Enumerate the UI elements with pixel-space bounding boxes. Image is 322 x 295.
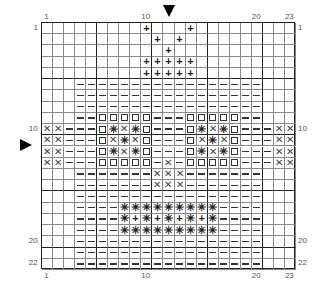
dash-symbol (220, 185, 227, 186)
grid-cell (53, 169, 64, 180)
grid-cell (42, 57, 53, 68)
grid-cell (64, 225, 75, 236)
grid-cell (252, 191, 263, 202)
cross-symbol: ✕ (54, 147, 62, 157)
grid-cell (252, 169, 263, 180)
grid-cell (75, 113, 86, 124)
grid-cell (64, 259, 75, 270)
grid-cell (86, 23, 97, 34)
dash-symbol (198, 252, 205, 253)
asterisk-symbol: ✳ (131, 225, 140, 236)
dash-symbol (154, 252, 161, 253)
grid-cell (230, 158, 241, 169)
dash-symbol (242, 84, 249, 85)
grid-cell (163, 113, 174, 124)
dash-symbol (154, 162, 161, 163)
dash-symbol (231, 252, 238, 253)
grid-cell (42, 225, 53, 236)
dash-symbol (99, 173, 106, 174)
grid-cell (252, 225, 263, 236)
grid-cell: ✳ (163, 225, 174, 236)
grid-cell (208, 79, 219, 90)
square-symbol (198, 159, 205, 166)
grid-cell (64, 191, 75, 202)
dash-symbol (66, 128, 73, 129)
dash-symbol (220, 84, 227, 85)
grid-cell (86, 147, 97, 158)
grid-cell (241, 45, 252, 56)
dash-symbol (231, 173, 238, 174)
grid-cell (186, 236, 197, 247)
grid-cell (75, 57, 86, 68)
grid-cell (108, 236, 119, 247)
grid-cell: + (152, 34, 163, 45)
grid-cell (230, 102, 241, 113)
dash-symbol (220, 95, 227, 96)
dash-symbol (176, 140, 183, 141)
cross-symbol: ✕ (275, 135, 283, 145)
grid-cell (197, 68, 208, 79)
grid-cell (97, 158, 108, 169)
dash-symbol (165, 84, 172, 85)
dash-symbol (176, 106, 183, 107)
dash-symbol (121, 106, 128, 107)
dash-symbol (231, 218, 238, 219)
plus-symbol: + (143, 68, 149, 79)
dash-symbol (110, 185, 117, 186)
grid-cell (208, 45, 219, 56)
asterisk-symbol: ✳ (109, 124, 118, 135)
dash-symbol (77, 140, 84, 141)
grid-cell (64, 57, 75, 68)
grid-cell (42, 102, 53, 113)
dash-symbol (176, 117, 183, 118)
grid-cell (130, 23, 141, 34)
dash-symbol (187, 263, 194, 264)
dash-symbol (209, 241, 216, 242)
grid-cell (141, 169, 152, 180)
grid-cell (86, 68, 97, 79)
grid-cell (175, 79, 186, 90)
grid-cell (252, 45, 263, 56)
dash-symbol (242, 128, 249, 129)
dash-symbol (77, 185, 84, 186)
dash-symbol (77, 106, 84, 107)
grid-cell (230, 68, 241, 79)
asterisk-symbol: ✳ (120, 135, 129, 146)
grid-cell (152, 124, 163, 135)
dash-symbol (198, 173, 205, 174)
grid-cell (97, 203, 108, 214)
grid-cell (274, 259, 285, 270)
grid-cell (219, 169, 230, 180)
asterisk-symbol: ✳ (175, 225, 184, 236)
grid-cell (53, 90, 64, 101)
grid-cell (230, 23, 241, 34)
asterisk-symbol: ✳ (142, 213, 151, 224)
asterisk-symbol: ✳ (197, 225, 206, 236)
grid-cell (186, 180, 197, 191)
cross-symbol: ✕ (275, 124, 283, 134)
grid-cell (219, 248, 230, 259)
grid-cell (252, 147, 263, 158)
grid-cell (163, 23, 174, 34)
dash-symbol (253, 185, 260, 186)
square-symbol (143, 159, 150, 166)
grid-cell (230, 147, 241, 158)
grid-cell (263, 45, 274, 56)
cross-symbol: ✕ (164, 180, 172, 190)
dash-symbol (253, 241, 260, 242)
grid-cell (263, 102, 274, 113)
dash-symbol (77, 95, 84, 96)
dash-symbol (253, 162, 260, 163)
asterisk-symbol: ✳ (219, 146, 228, 157)
grid-cell (274, 169, 285, 180)
grid-cell (86, 45, 97, 56)
grid-cell (119, 236, 130, 247)
dash-symbol (132, 252, 139, 253)
grid-cell (141, 259, 152, 270)
grid-cell (141, 147, 152, 158)
dash-symbol (99, 218, 106, 219)
dash-symbol (88, 218, 95, 219)
dash-symbol (264, 162, 271, 163)
grid-cell (175, 147, 186, 158)
dash-symbol (88, 263, 95, 264)
